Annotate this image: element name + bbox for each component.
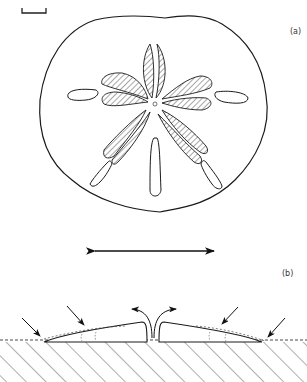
slit-lower-right — [201, 161, 222, 189]
test-profile-right — [159, 322, 262, 342]
petal-top — [143, 44, 165, 98]
slit-right — [215, 91, 248, 103]
apical-system — [153, 102, 157, 106]
sand-dollar-figure: (a) (b) — [0, 0, 307, 382]
slit-left — [68, 89, 98, 100]
petal-upper-right — [162, 76, 212, 110]
slit-lower-left — [90, 161, 112, 186]
test-outline — [40, 16, 268, 212]
petal-lower-right — [158, 110, 208, 164]
hatched-sediment — [0, 340, 307, 382]
panel-label-b: (b) — [282, 269, 293, 278]
scale-bar — [22, 8, 46, 13]
petal-upper-left — [102, 73, 148, 106]
panel-label-a: (a) — [290, 27, 301, 36]
petal-lower-left — [104, 110, 150, 164]
inhalant-flow-arrows — [22, 306, 285, 337]
slit-posterior — [150, 138, 161, 196]
